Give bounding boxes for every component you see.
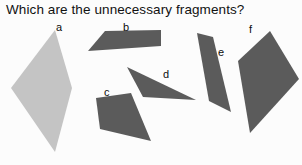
fragment-label-b: b xyxy=(123,22,129,33)
fragment-shape-c[interactable] xyxy=(96,93,151,141)
fragment-label-c: c xyxy=(104,87,110,98)
fragments-figure xyxy=(0,0,302,165)
shape-group xyxy=(11,30,299,152)
fragment-label-a: a xyxy=(56,22,62,33)
fragment-label-f: f xyxy=(249,24,252,35)
fragment-shape-e[interactable] xyxy=(197,33,231,112)
fragment-shape-a[interactable] xyxy=(11,30,72,152)
fragment-shape-b[interactable] xyxy=(88,30,161,51)
fragment-label-e: e xyxy=(218,47,224,58)
fragment-label-d: d xyxy=(163,69,169,80)
puzzle-image: Which are the unnecessary fragments? abc… xyxy=(0,0,302,165)
fragment-shape-f[interactable] xyxy=(238,31,299,133)
fragment-shape-d[interactable] xyxy=(127,67,196,100)
